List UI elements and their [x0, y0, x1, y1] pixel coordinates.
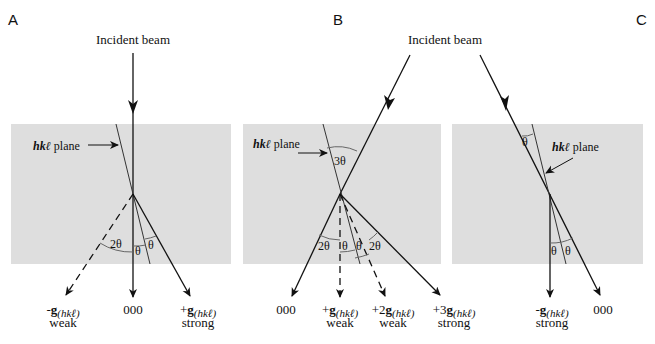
beam-label-000-c: 000: [593, 302, 613, 317]
angle-label: 3θ: [334, 154, 346, 168]
svg-text:weak: weak: [49, 315, 77, 330]
svg-text:strong: strong: [438, 315, 471, 330]
panel-c: C θ hkℓ plane θ θ -g(hkℓ) strong 000: [452, 11, 647, 330]
angle-label: θ: [565, 244, 571, 258]
angle-label: 2θ: [318, 239, 330, 253]
incident-beam-label-b: Incident beam: [408, 32, 482, 47]
angle-label: θ: [522, 135, 528, 149]
svg-text:weak: weak: [326, 315, 354, 330]
angle-label: θ: [135, 244, 141, 258]
beam-label-plus-g-a: +g(hkℓ) strong: [180, 302, 216, 330]
panel-label-c: C: [636, 11, 647, 28]
beam-label-plus-g-b: +g(hkℓ) weak: [322, 302, 358, 330]
panel-label-b: B: [333, 11, 343, 28]
hkl-plane-label-a: hkℓ plane: [33, 139, 80, 153]
beam-label-minus-g-a: -g(hkℓ) weak: [46, 302, 79, 330]
hkl-plane-label-b: hkℓ plane: [253, 137, 300, 151]
panel-label-a: A: [8, 11, 18, 28]
angle-label: θ: [551, 244, 557, 258]
incident-beam-label-a: Incident beam: [96, 32, 170, 47]
crystal-slab-c: [452, 124, 643, 264]
svg-text:weak: weak: [379, 315, 407, 330]
svg-text:strong: strong: [536, 315, 569, 330]
angle-label: 2θ: [110, 237, 122, 251]
beam-label-plus-3g-b: +3g(hkℓ) strong: [433, 302, 476, 330]
hkl-symbol: hkℓ: [33, 139, 51, 153]
angle-label: θ: [342, 239, 348, 253]
beam-label-000-b: 000: [276, 302, 296, 317]
angle-label: θ: [148, 238, 154, 252]
angle-label: 2θ: [369, 239, 381, 253]
svg-text:strong: strong: [182, 315, 215, 330]
angle-label: θ: [356, 239, 362, 253]
diffraction-diagram: A Incident beam hkℓ plane 2θ θ θ -g(hkℓ)…: [0, 0, 655, 344]
beam-label-plus-2g-b: +2g(hkℓ) weak: [372, 302, 415, 330]
hkl-plane-label-c: hkℓ plane: [552, 140, 599, 154]
incident-arrow-icon-c: [500, 95, 509, 111]
beam-label-000-a: 000: [123, 302, 143, 317]
panel-a: A Incident beam hkℓ plane 2θ θ θ -g(hkℓ)…: [8, 11, 231, 330]
beam-label-minus-g-c: -g(hkℓ) strong: [535, 302, 568, 330]
panel-b: B Incident beam hkℓ plane 3θ 2θ θ θ 2θ 0…: [243, 11, 482, 330]
